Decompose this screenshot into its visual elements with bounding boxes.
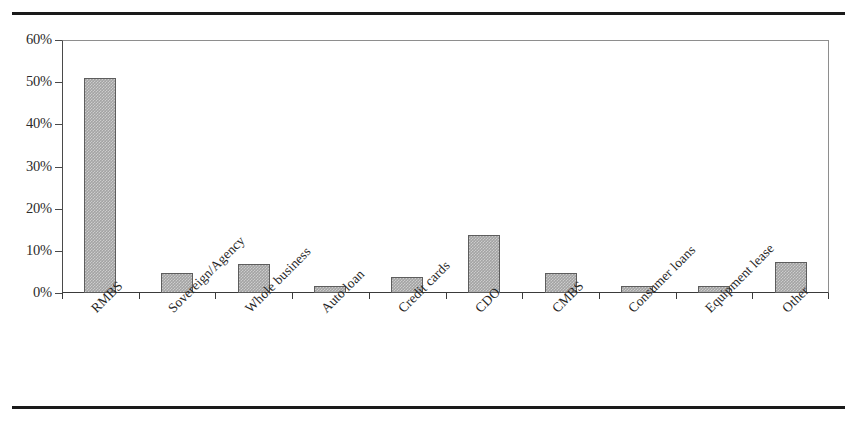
y-axis-tick-label: 40%: [0, 115, 52, 132]
y-axis-tick-label: 50%: [0, 73, 52, 90]
x-axis-tick-mark: [446, 293, 447, 299]
x-axis-tick-mark: [676, 293, 677, 299]
bar-chart-figure: 0%10%20%30%40%50%60% RMBSSovereign/Agenc…: [0, 0, 857, 427]
x-axis-tick-mark: [522, 293, 523, 299]
bar: [84, 78, 116, 293]
y-axis-tick-mark: [55, 167, 62, 168]
x-axis-tick-mark: [292, 293, 293, 299]
y-axis-tick-label: 10%: [0, 242, 52, 259]
y-axis-tick-mark: [55, 293, 62, 294]
x-axis-tick-mark: [828, 293, 829, 299]
x-axis-tick-mark: [752, 293, 753, 299]
y-axis-tick-label: 60%: [0, 31, 52, 48]
y-axis-tick-label: 30%: [0, 158, 52, 175]
x-axis-tick-mark: [215, 293, 216, 299]
y-axis-tick-mark: [55, 40, 62, 41]
x-axis-tick-mark: [139, 293, 140, 299]
y-axis-tick-label: 0%: [0, 284, 52, 301]
x-axis-tick-mark: [369, 293, 370, 299]
plot-area: [62, 40, 829, 293]
x-axis-tick-mark: [599, 293, 600, 299]
y-axis-tick-label: 20%: [0, 200, 52, 217]
x-axis-tick-mark: [62, 293, 63, 299]
y-axis-tick-mark: [55, 82, 62, 83]
bar: [468, 235, 500, 293]
y-axis-tick-mark: [55, 124, 62, 125]
y-axis-tick-mark: [55, 251, 62, 252]
y-axis-tick-mark: [55, 209, 62, 210]
